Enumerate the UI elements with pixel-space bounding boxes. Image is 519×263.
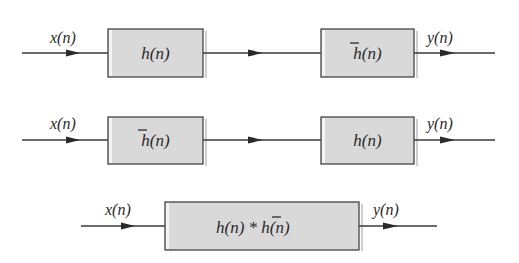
row3-input-label: x(n): [104, 201, 131, 219]
arrow-icon: [121, 223, 135, 230]
cascade-block-diagram: x(n) h(n) h(n) y(n) x(n) h(n): [0, 0, 519, 263]
row2-block2-label: h(n): [353, 131, 382, 150]
arrow-icon: [383, 223, 398, 230]
row1-block1-label: h(n): [141, 44, 170, 63]
row-1: x(n) h(n) h(n) y(n): [22, 29, 495, 78]
row-3: x(n) h(n) * h(n) y(n): [81, 201, 437, 251]
arrow-icon: [66, 137, 80, 144]
row1-block-hbar: h(n): [321, 29, 418, 78]
row2-block-hbar: h(n): [108, 117, 207, 166]
arrow-icon: [248, 137, 263, 144]
arrow-icon: [66, 50, 80, 57]
row2-block1-label: h(n): [141, 131, 170, 150]
row1-output-label: y(n): [425, 29, 453, 47]
arrow-icon: [248, 50, 263, 57]
row2-block-h: h(n): [321, 117, 418, 166]
row1-input-label: x(n): [49, 29, 76, 47]
row2-input-label: x(n): [49, 115, 76, 133]
row3-label-left: h(n) *: [216, 218, 261, 237]
arrow-icon: [440, 50, 455, 57]
row3-block-label: h(n) * h(n): [216, 218, 290, 237]
row1-block-h: h(n): [108, 29, 207, 78]
row3-label-right: h(n): [261, 218, 290, 237]
row3-block-convolution: h(n) * h(n): [165, 202, 363, 251]
row-2: x(n) h(n) h(n) y(n): [22, 115, 495, 166]
row3-output-label: y(n): [371, 201, 399, 219]
arrow-icon: [440, 137, 455, 144]
row2-output-label: y(n): [425, 115, 453, 133]
row1-block2-label: h(n): [353, 44, 382, 63]
